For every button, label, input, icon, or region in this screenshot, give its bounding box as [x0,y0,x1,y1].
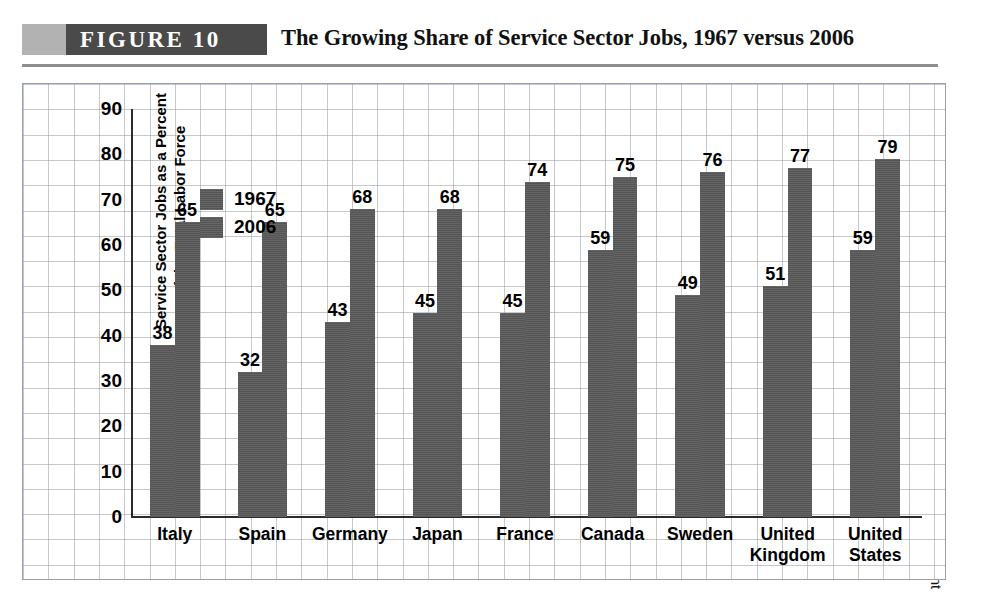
x-axis-label-sweden: Sweden [650,524,750,545]
bar-germany-1967: 43 [325,322,350,517]
x-axis-label-line: Germany [300,524,400,545]
bar-group: 5177 [763,109,812,517]
chart-legend: 19672006 [200,188,276,238]
y-axis-tick-label: 50 [101,279,122,301]
bar-value-label: 51 [765,264,785,284]
bar-value-label: 74 [527,160,547,180]
bar-value-label: 65 [177,200,197,220]
figure-title: The Growing Share of Service Sector Jobs… [281,25,854,51]
bar-group: 5975 [588,109,637,517]
bar-group: 4976 [675,109,724,517]
x-axis-label-canada: Canada [563,524,663,545]
bar-value-label: 79 [878,137,898,157]
bar-value-label: 43 [327,300,347,320]
bar-group: 3265 [238,109,287,517]
x-axis-label-line: France [475,524,575,545]
bar-value-label: 77 [790,146,810,166]
bar-value-label: 45 [415,291,435,311]
x-axis-label-line: Canada [563,524,663,545]
figure-number-banner: FIGURE 10 [22,24,267,55]
x-axis-label-line: United [738,524,838,545]
x-axis-label-line: Italy [125,524,225,545]
bar-italy-1967: 38 [150,345,175,517]
y-axis-tick-label: 60 [101,234,122,256]
bar-canada-2006: 75 [613,177,638,517]
x-axis-label-line: Japan [388,524,488,545]
bar-france-2006: 74 [525,182,550,517]
banner-accent-tab [22,24,66,55]
legend-entry-2006: 2006 [200,216,276,238]
bar-united-kingdom-2006: 77 [788,168,813,517]
bar-value-label: 68 [352,187,372,207]
bar-group: 4568 [413,109,462,517]
bar-italy-2006: 65 [175,222,200,517]
legend-label: 1967 [234,188,276,210]
x-axis-label-spain: Spain [213,524,313,545]
figure-header: FIGURE 10 The Growing Share of Service S… [0,0,940,66]
bar-spain-2006: 65 [262,222,287,517]
bar-spain-1967: 32 [238,372,263,517]
x-axis-label-united-kingdom: UnitedKingdom [738,524,838,566]
bar-value-label: 45 [503,291,523,311]
bar-value-label: 32 [240,350,260,370]
legend-label: 2006 [234,216,276,238]
x-axis-label-line: United [825,524,925,545]
bar-value-label: 49 [678,273,698,293]
bar-group: 4368 [325,109,374,517]
bar-canada-1967: 59 [588,250,613,517]
x-axis-label-line: Sweden [650,524,750,545]
bar-group: 4574 [500,109,549,517]
plot-area: 9080706050403020100 38653265436845684574… [131,109,919,517]
y-axis-tick-label: 90 [101,98,122,120]
bar-france-1967: 45 [500,313,525,517]
y-axis-tick-label: 70 [101,189,122,211]
legend-entry-1967: 1967 [200,188,276,210]
bar-value-label: 38 [152,323,172,343]
y-axis-tick-label: 20 [101,415,122,437]
y-axis-line [131,109,133,518]
bar-sweden-1967: 49 [675,295,700,517]
bar-group: 5979 [850,109,899,517]
x-axis-label-line: Kingdom [738,545,838,566]
bar-value-label: 76 [702,150,722,170]
x-axis-label-germany: Germany [300,524,400,545]
bar-united-states-2006: 79 [875,159,900,517]
bar-value-label: 75 [615,155,635,175]
bar-japan-1967: 45 [413,313,438,517]
bar-united-kingdom-1967: 51 [763,286,788,517]
y-axis-tick-label: 0 [111,506,122,528]
bar-japan-2006: 68 [437,209,462,517]
chart-panel: Service Sector Jobs as a Percentof the T… [22,83,946,580]
x-axis-label-japan: Japan [388,524,488,545]
bar-value-label: 59 [590,228,610,248]
x-axis-label-italy: Italy [125,524,225,545]
x-axis-label-line: Spain [213,524,313,545]
bar-value-label: 59 [853,228,873,248]
bar-group: 3865 [150,109,199,517]
y-axis-tick-label: 30 [101,370,122,392]
bar-value-label: 68 [440,187,460,207]
bar-united-states-1967: 59 [850,250,875,517]
legend-swatch-icon [200,217,223,238]
bar-sweden-2006: 76 [700,172,725,517]
legend-swatch-icon [200,189,223,210]
y-axis-tick-label: 10 [101,461,122,483]
x-axis-label-france: France [475,524,575,545]
figure-container: FIGURE 10 The Growing Share of Service S… [0,0,993,597]
x-axis-label-united-states: UnitedStates [825,524,925,566]
y-axis-tick-label: 80 [101,143,122,165]
y-axis-tick-label: 40 [101,325,122,347]
bar-germany-2006: 68 [350,209,375,517]
x-axis-label-line: States [825,545,925,566]
